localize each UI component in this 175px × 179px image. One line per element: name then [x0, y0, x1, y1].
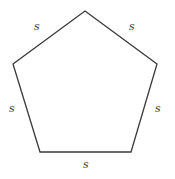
side-label-left: s [9, 103, 15, 114]
pentagon-drawing [0, 0, 175, 179]
pentagon-figure: s s s s s [0, 0, 175, 179]
side-label-right: s [155, 103, 161, 114]
side-label-top-left: s [34, 21, 40, 32]
side-label-bottom: s [83, 159, 89, 170]
side-label-top-right: s [129, 21, 135, 32]
